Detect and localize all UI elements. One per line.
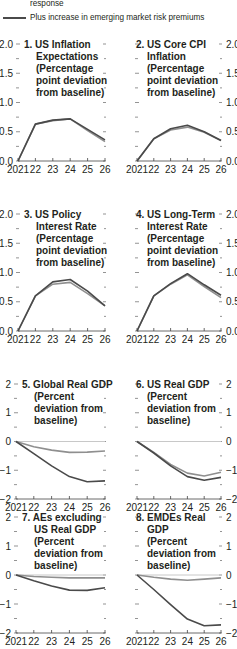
series-line-response	[18, 119, 105, 161]
panel-title: baseline)	[34, 415, 77, 426]
panel-title: from baseline)	[36, 87, 104, 98]
y-tick-label: 1.0	[0, 97, 13, 108]
panel-title: Interest Rate	[36, 221, 97, 232]
y-tick-label: 2.0	[0, 209, 13, 220]
x-tick-label: 2021	[7, 334, 30, 345]
panel-title: point deviation	[147, 75, 218, 86]
panel-title: 2. US Core CPI	[136, 39, 206, 50]
panel-title: point deviation	[147, 245, 218, 256]
y-tick-label: 0.5	[226, 296, 237, 307]
x-tick-label: 26	[99, 334, 111, 345]
panel-title: baseline)	[34, 560, 77, 571]
x-tick-label: 23	[47, 334, 59, 345]
series-line-em-risk	[18, 280, 105, 332]
x-tick-label: 24	[182, 164, 194, 175]
x-tick-label: 2021	[5, 636, 28, 647]
y-tick-label: −2	[226, 494, 237, 505]
y-tick-label: 1	[226, 407, 232, 418]
panel-title: from baseline)	[36, 257, 104, 268]
y-tick-label: 0.5	[226, 126, 237, 137]
x-tick-label: 23	[165, 164, 177, 175]
y-tick-label: 1.0	[226, 267, 237, 278]
x-tick-label: 24	[182, 334, 194, 345]
y-tick-label: −1	[0, 465, 11, 476]
panel-title: 7. AEs excluding	[22, 512, 102, 523]
panel-title: deviation from	[34, 548, 103, 559]
x-tick-label: 2021	[126, 636, 149, 647]
series-line-response	[18, 282, 105, 331]
panel-title: GDP	[147, 524, 169, 535]
x-tick-label: 2021	[7, 164, 30, 175]
y-tick-label: 1.0	[226, 97, 237, 108]
y-tick-label: −2	[226, 628, 237, 639]
panel-title: (Percentage	[147, 63, 205, 74]
panel-title: baseline)	[147, 560, 190, 571]
y-tick-label: 2	[5, 512, 11, 523]
panel-title: 8. EMDEs Real	[136, 512, 206, 523]
y-tick-label: 1.5	[0, 238, 13, 249]
panel-title: 5. Global Real GDP	[22, 379, 113, 390]
panel-title: US Real GDP	[34, 524, 97, 535]
panel-title: Inflation	[147, 51, 186, 62]
x-tick-label: 25	[199, 334, 211, 345]
panel-3: 0.00.51.01.52.0202122232425263. US Polic…	[0, 209, 111, 346]
panel-title: point deviation	[36, 75, 107, 86]
series-line-response	[137, 575, 221, 580]
panel-title: (Percentage	[36, 63, 94, 74]
panel-title: from baseline)	[147, 257, 215, 268]
series-line-em-risk	[137, 575, 221, 626]
y-tick-label: 0	[226, 570, 232, 581]
x-tick-label: 22	[30, 334, 42, 345]
y-tick-label: 1.5	[226, 238, 237, 249]
x-tick-label: 26	[215, 164, 227, 175]
panel-title: 6. US Real GDP	[136, 379, 210, 390]
x-tick-label: 26	[99, 164, 111, 175]
panel-title: (Percent	[147, 391, 188, 402]
series-line-em-risk	[16, 442, 105, 482]
x-tick-label: 2021	[126, 334, 149, 345]
panel-title: (Percentage	[36, 233, 94, 244]
y-tick-label: 0.5	[0, 126, 13, 137]
y-tick-label: 0	[226, 436, 232, 447]
panel-title: deviation from	[34, 403, 103, 414]
panel-title: point deviation	[36, 245, 107, 256]
y-tick-label: 2	[5, 379, 11, 390]
panel-title: from baseline)	[147, 87, 215, 98]
panel-title: deviation from	[147, 403, 216, 414]
x-tick-label: 22	[30, 164, 42, 175]
x-tick-label: 24	[65, 164, 77, 175]
y-tick-label: 0	[5, 570, 11, 581]
panel-title: (Percent	[147, 536, 188, 547]
y-tick-label: 2	[226, 512, 232, 523]
y-tick-label: 2.0	[226, 39, 237, 50]
x-tick-label: 25	[199, 164, 211, 175]
x-tick-label: 24	[64, 636, 76, 647]
y-tick-label: −1	[0, 599, 11, 610]
panel-7: −2−1012202122232425267. AEs excludingUS …	[0, 512, 111, 648]
series-line-em-risk	[137, 274, 221, 331]
x-tick-label: 25	[82, 636, 94, 647]
y-tick-label: 1	[5, 407, 11, 418]
panel-1: 0.00.51.01.52.0202122232425261. US Infla…	[0, 39, 111, 176]
x-tick-label: 23	[165, 636, 177, 647]
panel-title: (Percent	[34, 391, 75, 402]
x-tick-label: 22	[148, 334, 160, 345]
x-tick-label: 23	[47, 164, 59, 175]
y-tick-label: 2.0	[0, 39, 13, 50]
x-tick-label: 22	[28, 636, 40, 647]
y-tick-label: 1	[226, 541, 232, 552]
y-tick-label: 0.0	[226, 156, 237, 167]
panel-title: 1. US Inflation	[24, 39, 91, 50]
y-tick-label: 1.5	[226, 68, 237, 79]
x-tick-label: 24	[65, 334, 77, 345]
x-tick-label: 25	[82, 164, 94, 175]
y-tick-label: 2	[226, 379, 232, 390]
panel-2: 0.00.51.01.52.0202122232425262. US Core …	[126, 39, 237, 176]
panel-title: 4. US Long-Term	[136, 209, 215, 220]
panel-title: (Percent	[34, 536, 75, 547]
panel-6: −2−1012202122232425266. US Real GDP(Perc…	[126, 379, 237, 514]
y-tick-label: −1	[226, 465, 237, 476]
y-tick-label: 2.0	[226, 209, 237, 220]
panel-title: baseline)	[147, 415, 190, 426]
series-line-em-risk	[18, 119, 105, 161]
